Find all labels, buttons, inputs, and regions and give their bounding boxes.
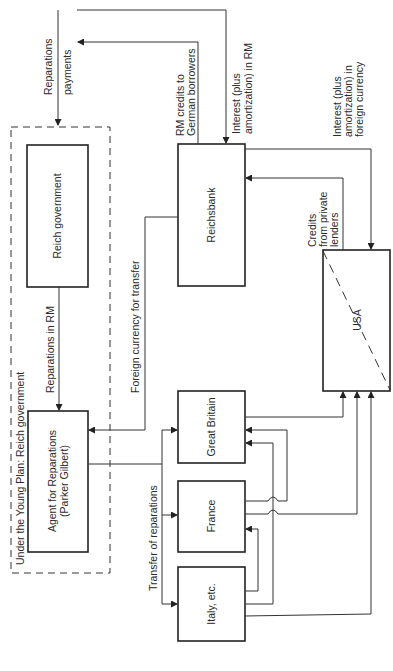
reich-government-label: Reich government xyxy=(51,173,63,258)
france-label: France xyxy=(205,500,217,533)
svg-text:Reparations in RM: Reparations in RM xyxy=(44,306,56,393)
edge-transfer-of-reparations: Transfer of reparations xyxy=(88,430,177,604)
edge-interest-rm: Interest (plus amortization) in RM xyxy=(226,10,254,143)
svg-text:foreign currency: foreign currency xyxy=(353,61,365,137)
agent-label-line1: Agent for Reparations xyxy=(46,430,58,532)
edge-italy-to-france xyxy=(245,529,258,591)
svg-text:Transfer of reparations: Transfer of reparations xyxy=(147,485,159,591)
agent-label-line2: (Parker Gilbert) xyxy=(58,445,70,517)
reparations-flow-diagram: Under the Young Plan: Reich government R… xyxy=(0,0,393,671)
edge-france-to-usa xyxy=(245,392,357,514)
node-italy: Italy, etc. xyxy=(178,567,245,641)
edge-france-to-gb xyxy=(245,430,287,501)
svg-text:payments: payments xyxy=(61,49,73,95)
node-usa: USA xyxy=(323,250,390,391)
node-reich-government: Reich government xyxy=(27,145,88,287)
node-agent-for-reparations: Agent for Reparations (Parker Gilbert) xyxy=(28,411,88,552)
edge-rm-credits: RM credits to German borrowers xyxy=(78,42,198,144)
edge-gb-to-usa xyxy=(245,392,343,417)
node-france: France xyxy=(178,481,245,552)
node-reichsbank: Reichsbank xyxy=(178,144,245,286)
svg-text:lenders: lenders xyxy=(328,213,340,247)
edge-italy-to-gb xyxy=(245,443,273,604)
reichsbank-label: Reichsbank xyxy=(205,187,217,243)
svg-text:German borrowers: German borrowers xyxy=(185,48,197,136)
svg-text:amortization) in RM: amortization) in RM xyxy=(242,43,254,134)
edge-italy-to-usa xyxy=(245,392,371,616)
usa-label: USA xyxy=(351,309,363,331)
great-britain-label: Great Britain xyxy=(205,397,217,456)
young-plan-label: Under the Young Plan: Reich government xyxy=(14,372,26,565)
svg-text:Foreign currency for transfer: Foreign currency for transfer xyxy=(129,260,141,393)
edge-foreign-currency-transfer: Foreign currency for transfer xyxy=(89,217,178,430)
edge-credits-private-lenders: Credits from private lenders xyxy=(246,178,343,250)
svg-text:Reparations: Reparations xyxy=(42,38,54,95)
node-great-britain: Great Britain xyxy=(178,391,245,463)
svg-text:Interest (plus: Interest (plus xyxy=(230,73,242,134)
edge-reparations-in-rm: Reparations in RM xyxy=(44,287,59,410)
italy-label: Italy, etc. xyxy=(205,583,217,624)
